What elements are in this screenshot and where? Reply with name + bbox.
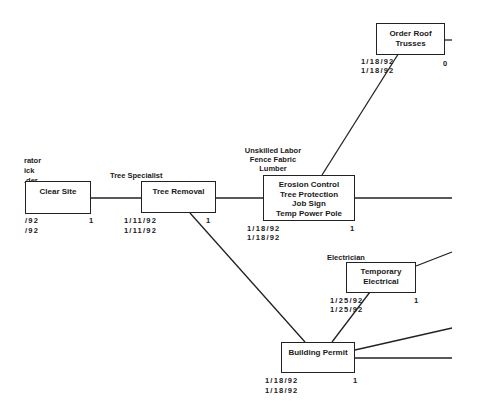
node-title: Building Permit — [288, 348, 347, 357]
node-title-line: Electrical — [347, 277, 415, 287]
clear-site-finish: /92 — [25, 226, 39, 236]
clear-site-duration: 1 — [89, 216, 93, 226]
node-erosion-control[interactable]: Erosion Control Tree Protection Job Sign… — [263, 175, 355, 221]
node-title-line: Job Sign — [264, 199, 354, 209]
tree-removal-start: 1/11/92 — [124, 216, 157, 226]
node-title: Clear Site — [40, 187, 77, 196]
node-title-line: Temp Power Pole — [264, 209, 354, 219]
node-temporary-electrical[interactable]: Temporary Electrical — [346, 262, 416, 293]
tree-removal-finish: 1/11/92 — [124, 226, 157, 236]
node-title-line: Temporary — [347, 267, 415, 277]
node-title-line: Erosion Control — [264, 180, 354, 190]
node-clear-site[interactable]: Clear Site — [25, 181, 91, 214]
erosion-finish: 1/18/92 — [247, 233, 280, 243]
electrical-finish: 1/25/92 — [330, 305, 363, 315]
node-building-permit[interactable]: Building Permit — [281, 342, 355, 373]
trusses-finish: 1/18/92 — [361, 66, 394, 76]
tree-removal-duration: 1 — [206, 216, 210, 226]
electrical-duration: 1 — [414, 296, 418, 306]
permit-finish: 1/18/92 — [265, 386, 298, 396]
erosion-duration: 1 — [350, 224, 354, 234]
permit-start: 1/18/92 — [265, 376, 298, 386]
node-title: Tree Removal — [152, 187, 204, 196]
link-electrical-out — [416, 252, 452, 266]
permit-duration: 1 — [353, 376, 357, 386]
clear-site-resource-2: ick — [24, 166, 34, 176]
clear-site-resource-1: rator — [24, 156, 41, 166]
tree-removal-resource: Tree Specialist — [110, 171, 163, 181]
node-title-line: Order Roof — [377, 29, 444, 39]
erosion-resource-3: Lumber — [228, 164, 318, 174]
trusses-duration: 0 — [443, 59, 447, 69]
node-title-line: Trusses — [377, 39, 444, 49]
node-title-line: Tree Protection — [264, 190, 354, 200]
node-order-roof-trusses[interactable]: Order Roof Trusses — [376, 23, 445, 55]
pert-network-diagram: rator ick .der Clear Site /92 /92 1 Tree… — [0, 0, 478, 412]
clear-site-start: /92 — [25, 216, 39, 226]
link-permit-out-1 — [355, 328, 452, 350]
node-tree-removal[interactable]: Tree Removal — [141, 181, 216, 213]
